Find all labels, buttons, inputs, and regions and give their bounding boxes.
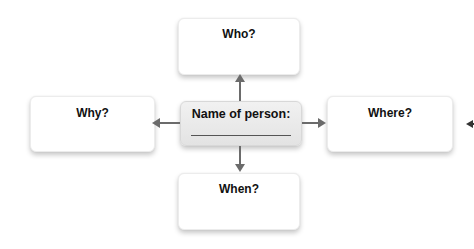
node-where-label: Where? [328,106,452,120]
name-blank-line [191,135,291,136]
arrow-to-why [160,122,180,124]
center-label: Name of person: [181,107,301,121]
arrowhead-right-icon [318,118,326,128]
arrow-to-when [239,146,241,166]
node-why-label: Why? [31,106,154,120]
node-where: Where? [327,96,453,152]
center-node: Name of person: [180,101,302,146]
arrowhead-left-icon [152,118,160,128]
node-when: When? [178,173,300,230]
arrow-to-who [239,80,241,101]
node-why: Why? [30,96,155,152]
node-when-label: When? [179,182,299,196]
arrowhead-up-icon [235,74,245,82]
node-who: Who? [178,18,300,75]
node-who-label: Who? [179,27,299,41]
arrowhead-down-icon [235,164,245,172]
